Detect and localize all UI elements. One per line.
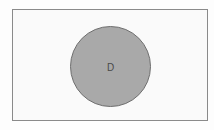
set-d-circle: D bbox=[70, 26, 151, 107]
set-d-label: D bbox=[107, 63, 114, 73]
venn-diagram: D bbox=[0, 0, 214, 130]
